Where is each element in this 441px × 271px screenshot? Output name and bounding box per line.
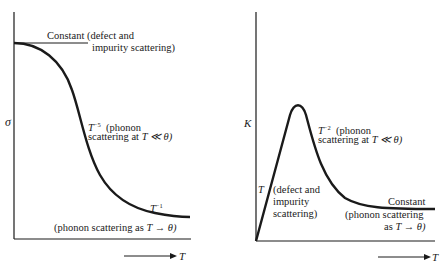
t-minus1-line2b: T → θ) — [146, 222, 176, 233]
t-minus2-exp: −2 — [324, 124, 331, 131]
right-constant-line2: (phonon scattering — [345, 209, 423, 221]
right-constant-line3a: as — [384, 221, 395, 232]
linear-t-label: T — [258, 184, 264, 196]
left-t-axis-label: T — [179, 250, 185, 262]
linear-label-line2: impurity — [273, 196, 309, 208]
t-minus1-label: T−1 — [150, 200, 163, 215]
constant-label-line1: Constant (defect and — [47, 30, 134, 42]
t-minus2-line2a: scattering at — [318, 134, 372, 145]
t-minus2-label-line2: scattering at T ≪ θ) — [318, 134, 402, 146]
t-minus5-label-line2: scattering at T ≪ θ) — [88, 131, 172, 143]
t-minus5-line2a: scattering at — [88, 131, 142, 142]
right-constant-line3: as T → θ) — [384, 221, 425, 233]
right-t-arrow-head — [424, 254, 431, 260]
right-t-axis-label: T — [432, 251, 438, 263]
t-minus1-label-line2: (phonon scattering as T → θ) — [54, 222, 177, 234]
left-t-arrow-head — [170, 253, 177, 259]
t-minus5-exp: −5 — [94, 121, 101, 128]
sigma-axis-label: σ — [5, 116, 11, 128]
k-axis-label: K — [244, 117, 251, 129]
t-minus5-line2b: T ≪ θ) — [142, 131, 173, 142]
t-minus1-exp: −1 — [156, 202, 163, 209]
linear-label-line1: (defect and — [273, 184, 320, 196]
right-constant-line3b: T → θ) — [395, 221, 425, 232]
t-minus2-line2b: T ≪ θ) — [372, 134, 403, 145]
linear-label-line3: scattering) — [273, 208, 317, 220]
t-minus1-line2a: (phonon scattering as — [54, 222, 146, 233]
constant-label-line2: impurity scattering) — [92, 42, 175, 54]
right-constant-line1: Constant — [388, 196, 425, 208]
